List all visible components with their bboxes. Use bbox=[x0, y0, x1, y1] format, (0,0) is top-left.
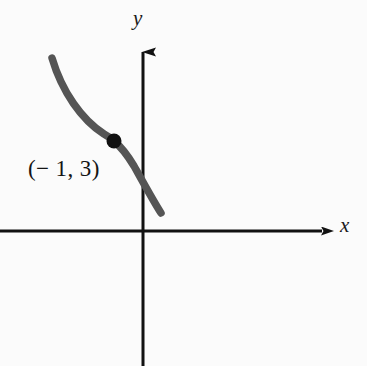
coordinate-plane-svg bbox=[0, 0, 367, 366]
point-coordinate-label: (− 1, 3) bbox=[28, 157, 100, 180]
inflection-point-marker bbox=[107, 134, 122, 149]
x-axis-label: x bbox=[340, 215, 349, 236]
y-axis-label: y bbox=[133, 8, 142, 29]
graph-figure: y x (− 1, 3) bbox=[0, 0, 367, 366]
function-curve bbox=[52, 58, 161, 213]
